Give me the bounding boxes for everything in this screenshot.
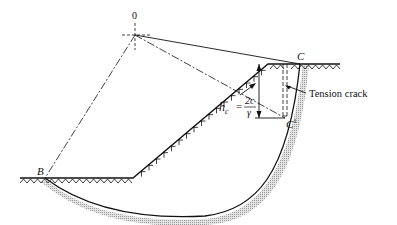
point-c-label: C (297, 50, 305, 62)
hatch-mark (66, 179, 70, 183)
hatch-mark (101, 179, 105, 183)
hatch-mark (20, 179, 24, 183)
ground-hatch-slope (141, 69, 266, 176)
hatch-mark (312, 65, 316, 69)
hatch-mark (108, 179, 112, 183)
hatch-mark (94, 179, 98, 183)
hatch-mark (323, 65, 327, 69)
hatch-mark (270, 65, 274, 69)
hatch-mark (87, 179, 91, 183)
hatch-mark (337, 65, 341, 69)
hc-subscript: c (225, 107, 229, 116)
hatch-mark (80, 179, 84, 183)
tension-crack-leader-head (285, 86, 291, 90)
hc-equals: = (236, 100, 242, 112)
hc-numerator: 2c (245, 95, 255, 106)
center-label: 0 (132, 10, 137, 21)
hatch-mark (90, 179, 94, 183)
hatch-mark (277, 65, 281, 69)
hatch-mark (73, 179, 77, 183)
hatch-mark (27, 179, 31, 183)
hatch-mark (125, 179, 129, 183)
hatch-mark (281, 65, 285, 69)
hatch-mark (319, 65, 323, 69)
hatch-mark (316, 65, 320, 69)
hatch-mark (309, 65, 313, 69)
hc-arrow-bottom (257, 111, 262, 118)
hatch-mark (115, 179, 119, 183)
hatch-mark (295, 65, 299, 69)
slip-surface-shading (40, 64, 309, 225)
hatch-mark (55, 179, 59, 183)
radius-line-to-c1 (135, 35, 285, 118)
hc-denominator: γ (247, 107, 252, 118)
hatch-mark (111, 179, 115, 183)
point-b-label: B (37, 165, 44, 177)
hatch-mark (24, 179, 28, 183)
hatch-mark (34, 179, 38, 183)
hatch-mark (83, 179, 87, 183)
hatch-mark (31, 179, 35, 183)
hatch-mark (330, 65, 334, 69)
point-c1-superscript: 1 (293, 117, 297, 125)
hatch-mark (291, 65, 295, 69)
tension-crack-label: Tension crack (309, 88, 368, 99)
radius-line-to-c (135, 35, 300, 64)
radius-line-to-b (45, 35, 135, 178)
ground-hatch-left (20, 179, 132, 183)
hatch-mark (326, 65, 330, 69)
hatch-mark (274, 65, 278, 69)
slope-stability-diagram: 0 C B C1 Tension crack hc = 2c γ (0, 0, 397, 225)
hatch-mark (62, 179, 66, 183)
hatch-mark (122, 179, 126, 183)
hc-arrow-top (257, 64, 262, 71)
hatch-mark (129, 179, 133, 183)
hatch-mark (59, 179, 63, 183)
hatch-mark (69, 179, 73, 183)
hatch-mark (333, 65, 337, 69)
hatch-mark (97, 179, 101, 183)
hatch-mark (118, 179, 122, 183)
hatch-mark (104, 179, 108, 183)
hatch-mark (76, 179, 80, 183)
